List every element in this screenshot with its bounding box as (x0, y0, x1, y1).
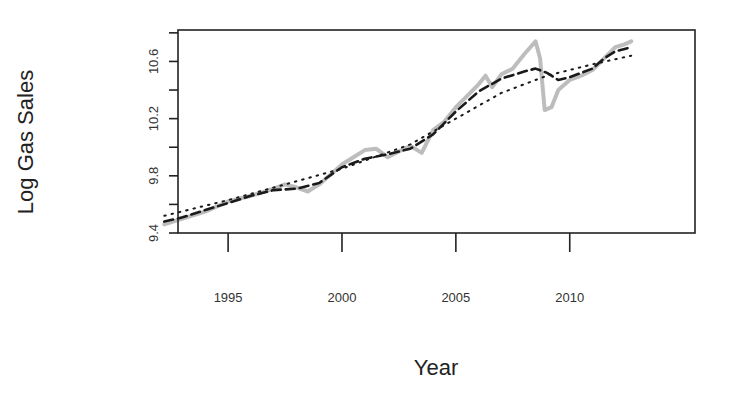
y-axis: 9.49.810.210.6 (146, 33, 178, 242)
y-axis-title: Log Gas Sales (13, 42, 39, 242)
x-tick-label: 1995 (214, 290, 243, 305)
series-layer (164, 41, 631, 224)
x-tick-label: 2010 (555, 290, 584, 305)
x-tick-label: 2005 (441, 290, 470, 305)
y-tick-label: 10.2 (146, 106, 161, 131)
y-tick-label: 10.6 (146, 49, 161, 74)
y-tick-label: 9.4 (146, 224, 161, 242)
line-chart: 9.49.810.210.6 1995200020052010 (0, 0, 732, 397)
x-tick-label: 2000 (328, 290, 357, 305)
series-smoothed (164, 47, 631, 221)
series-observed (164, 41, 631, 224)
y-tick-label: 9.8 (146, 167, 161, 185)
x-axis-title: Year (336, 355, 536, 381)
x-axis: 1995200020052010 (214, 233, 585, 305)
